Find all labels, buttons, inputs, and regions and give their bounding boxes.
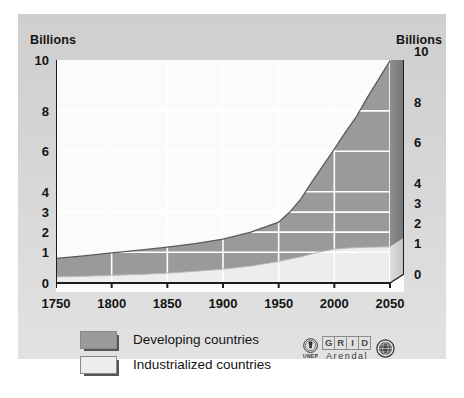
grid-letters: GRID [323, 336, 371, 350]
plot-svg-wrapper [56, 60, 404, 292]
y-tick-label-right-8: 8 [414, 95, 421, 108]
y-tick-label-right-1: 1 [414, 237, 421, 250]
legend-label-industrialized: Industrialized countries [133, 357, 271, 372]
x-tick-label-2050: 2050 [376, 296, 405, 311]
unep-logo: UNEP [303, 338, 318, 358]
y-tick-label-left-10: 10 [35, 54, 49, 67]
area-chart-svg [56, 60, 404, 292]
y-tick-label-left-4: 4 [42, 185, 49, 198]
legend-item-industrialized: Industrialized countries [80, 352, 271, 377]
legend-swatch-developing [80, 331, 117, 349]
y-tick-label-left-2: 2 [42, 226, 49, 239]
x-tick-label-1900: 1900 [209, 296, 238, 311]
grid-arendal-logo: UNEP GRID Arendal [303, 336, 395, 361]
left-axis-caption: Billions [30, 33, 76, 47]
x-tick-label-1800: 1800 [97, 296, 126, 311]
chart-legend: Developing countries Industrialized coun… [80, 327, 271, 377]
y-axis-right: 012346810 [414, 60, 448, 292]
legend-item-developing: Developing countries [80, 327, 271, 352]
y-tick-label-right-0: 0 [414, 268, 421, 281]
y-axis-left: 012346810 [20, 60, 49, 292]
unep-emblem-icon [303, 338, 318, 353]
arendal-label: Arendal [326, 351, 368, 361]
y-tick-label-left-3: 3 [42, 206, 49, 219]
x-tick-label-1850: 1850 [153, 296, 182, 311]
y-tick-label-left-1: 1 [42, 246, 49, 259]
plot-area [56, 60, 404, 292]
y-tick-label-left-6: 6 [42, 145, 49, 158]
y-tick-label-right-10: 10 [414, 45, 428, 58]
grid-letter-D: D [358, 336, 371, 350]
unep-label: UNEP [303, 353, 318, 359]
y-tick-label-left-0: 0 [42, 277, 49, 290]
y-tick-label-right-2: 2 [414, 217, 421, 230]
y-tick-label-right-4: 4 [414, 176, 421, 189]
legend-swatch-industrialized [80, 356, 117, 374]
side-face-developing [390, 60, 404, 247]
grid-wordmark: GRID Arendal [323, 336, 371, 361]
x-tick-label-1750: 1750 [42, 296, 71, 311]
legend-label-developing: Developing countries [133, 332, 259, 347]
y-tick-label-left-8: 8 [42, 104, 49, 117]
x-axis: 1750180018501900195020002050 [56, 296, 404, 314]
x-tick-label-2000: 2000 [320, 296, 349, 311]
x-tick-label-1950: 1950 [264, 296, 293, 311]
y-tick-label-right-6: 6 [414, 136, 421, 149]
population-growth-chart: Billions Billions 012346810 012346810 17… [0, 0, 464, 398]
un-globe-icon [376, 339, 395, 358]
y-tick-label-right-3: 3 [414, 197, 421, 210]
